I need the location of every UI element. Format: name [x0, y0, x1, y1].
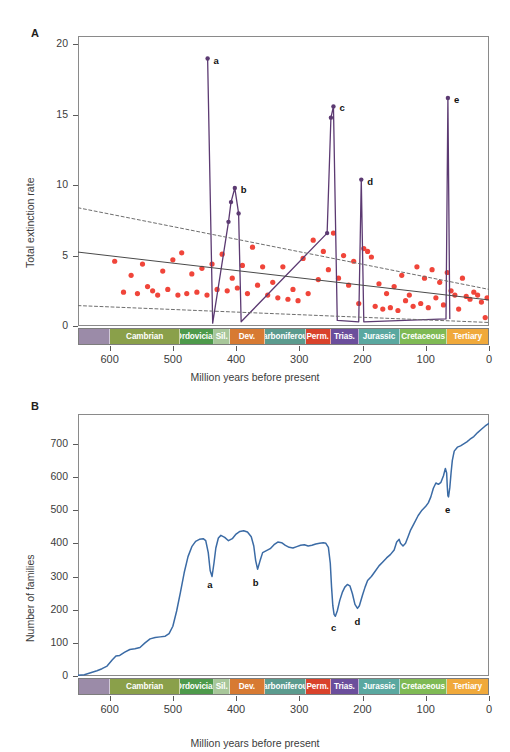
x-tick-mark	[173, 696, 174, 701]
extinction-peak-marker	[331, 104, 335, 108]
scatter-point	[175, 292, 180, 297]
x-tick-mark	[299, 346, 300, 351]
scatter-point	[384, 291, 389, 296]
annotation-label-e: e	[445, 504, 450, 515]
geologic-period-dev: Dev.	[230, 679, 265, 694]
scatter-point	[369, 254, 374, 259]
x-tick-label: 400	[216, 353, 256, 365]
scatter-point	[260, 264, 265, 269]
y-tick-label: 200	[34, 603, 68, 615]
y-tick-label: 400	[34, 536, 68, 548]
geologic-period-tertiary: Tertiary	[447, 329, 488, 344]
scatter-point	[380, 307, 385, 312]
annotation-label-d: d	[367, 176, 373, 187]
annotation-label-a: a	[207, 579, 212, 590]
scatter-point	[290, 287, 295, 292]
x-tick-label: 500	[153, 353, 193, 365]
geologic-period-sil: Sil.	[214, 329, 230, 344]
y-tick-mark	[73, 676, 78, 677]
panel-b-x-axis-label: Million years before present	[0, 737, 510, 749]
scatter-point	[184, 291, 189, 296]
scatter-point	[170, 257, 175, 262]
x-tick-mark	[236, 696, 237, 701]
y-tick-mark	[73, 610, 78, 611]
y-tick-mark	[73, 185, 78, 186]
y-tick-label: 0	[34, 319, 68, 331]
annotation-label-d: d	[354, 616, 360, 627]
y-tick-label: 600	[34, 470, 68, 482]
scatter-point	[189, 271, 194, 276]
y-tick-mark	[73, 115, 78, 116]
geologic-period-jurassic: Jurassic	[359, 329, 400, 344]
scatter-point	[452, 292, 457, 297]
y-tick-label: 20	[34, 37, 68, 49]
scatter-point	[403, 298, 408, 303]
scatter-point	[145, 284, 150, 289]
x-tick-mark	[299, 696, 300, 701]
scatter-point	[150, 288, 155, 293]
x-tick-mark	[363, 346, 364, 351]
scatter-point	[365, 249, 370, 254]
y-tick-label: 300	[34, 570, 68, 582]
scatter-point	[388, 305, 393, 310]
y-tick-mark	[73, 256, 78, 257]
scatter-point	[160, 269, 165, 274]
y-tick-label: 500	[34, 503, 68, 515]
annotation-label-b: b	[241, 184, 247, 195]
panel-a-x-axis-label: Million years before present	[0, 371, 510, 383]
x-tick-mark	[173, 346, 174, 351]
scatter-point	[475, 292, 480, 297]
geologic-period-jurassic: Jurassic	[359, 679, 400, 694]
geologic-period-cretaceous: Cretaceous	[400, 679, 447, 694]
scatter-point	[140, 261, 145, 266]
geologic-period-perm: Perm.	[306, 679, 331, 694]
x-tick-label: 300	[279, 353, 319, 365]
geologic-period-trias: Trias.	[331, 329, 359, 344]
x-tick-label: 100	[406, 353, 446, 365]
y-tick-mark	[73, 543, 78, 544]
y-tick-label: 700	[34, 437, 68, 449]
geologic-period-dev: Dev.	[230, 329, 265, 344]
x-tick-mark	[426, 696, 427, 701]
x-tick-label: 0	[469, 353, 509, 365]
scatter-point	[129, 273, 134, 278]
geologic-period-precambrian	[79, 679, 110, 694]
extinction-peak-marker	[329, 115, 333, 119]
scatter-point	[204, 292, 209, 297]
scatter-point	[270, 280, 275, 285]
panel-b-geologic-timescale: CambrianOrdovicianSil.Dev.CarboniferousP…	[78, 678, 489, 695]
scatter-point	[255, 283, 260, 288]
extinction-peak-marker	[359, 177, 363, 181]
scatter-point	[311, 238, 316, 243]
scatter-point	[414, 264, 419, 269]
x-tick-label: 200	[343, 703, 383, 715]
extinction-peak-marker	[226, 220, 230, 224]
y-tick-label: 0	[34, 669, 68, 681]
x-tick-mark	[110, 696, 111, 701]
extinction-peak-marker	[325, 231, 329, 235]
scatter-point	[411, 304, 416, 309]
scatter-point	[376, 281, 381, 286]
scatter-point	[155, 292, 160, 297]
x-tick-label: 300	[279, 703, 319, 715]
scatter-point	[179, 250, 184, 255]
scatter-point	[433, 295, 438, 300]
x-tick-mark	[236, 346, 237, 351]
scatter-point	[483, 315, 488, 320]
scatter-point	[225, 288, 230, 293]
y-tick-mark	[73, 577, 78, 578]
panel-a: A Total extinction rate 05101520 6005004…	[0, 0, 510, 392]
scatter-point	[399, 273, 404, 278]
scatter-point	[426, 305, 431, 310]
geologic-period-cambrian: Cambrian	[110, 329, 179, 344]
geologic-period-carboniferous: Carboniferous	[265, 679, 306, 694]
scatter-point	[429, 267, 434, 272]
x-tick-mark	[489, 696, 490, 701]
annotation-label-b: b	[253, 577, 259, 588]
x-tick-label: 400	[216, 703, 256, 715]
y-tick-mark	[73, 326, 78, 327]
x-tick-label: 100	[406, 703, 446, 715]
scatter-point	[441, 302, 446, 307]
extinction-peak-marker	[229, 200, 233, 204]
panel-a-geologic-timescale: CambrianOrdovicianSil.Dev.CarboniferousP…	[78, 328, 489, 345]
